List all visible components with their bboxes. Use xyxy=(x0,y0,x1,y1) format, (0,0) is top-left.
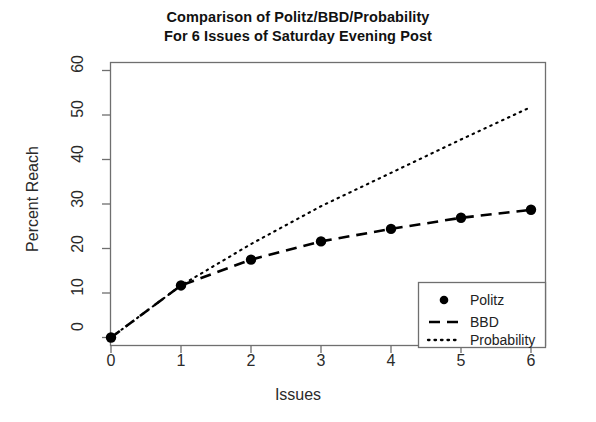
x-tick-label-2: 2 xyxy=(236,352,266,370)
plot-area xyxy=(0,0,596,422)
x-tick-label-1: 1 xyxy=(166,352,196,370)
legend-label-politz: Politz xyxy=(470,292,504,308)
x-axis-label: Issues xyxy=(0,386,596,404)
data-point-politz xyxy=(246,254,256,264)
y-tick-label-40: 40 xyxy=(69,145,85,175)
legend-label-probability: Probability xyxy=(470,332,535,348)
chart-figure: Comparison of Politz/BBD/Probability For… xyxy=(0,0,596,422)
y-tick-label-20: 20 xyxy=(69,235,85,265)
data-point-politz xyxy=(176,280,186,290)
data-point-politz xyxy=(106,332,116,342)
y-tick-label-50: 50 xyxy=(69,100,85,130)
data-point-politz xyxy=(456,213,466,223)
data-point-politz xyxy=(386,224,396,234)
chart-title: Comparison of Politz/BBD/Probability For… xyxy=(0,8,596,46)
y-axis-ticks xyxy=(102,71,110,338)
y-tick-label-0: 0 xyxy=(69,322,85,352)
x-tick-label-5: 5 xyxy=(446,352,476,370)
x-tick-label-3: 3 xyxy=(306,352,336,370)
chart-title-line-1: Comparison of Politz/BBD/Probability xyxy=(0,8,596,27)
chart-title-line-2: For 6 Issues of Saturday Evening Post xyxy=(0,27,596,46)
y-axis-label: Percent Reach xyxy=(24,119,42,279)
data-point-politz xyxy=(316,236,326,246)
data-point-politz xyxy=(526,205,536,215)
x-tick-label-0: 0 xyxy=(96,352,126,370)
legend-label-bbd: BBD xyxy=(470,314,499,330)
x-tick-label-4: 4 xyxy=(376,352,406,370)
x-tick-label-6: 6 xyxy=(516,352,546,370)
legend-marker-politz xyxy=(440,296,449,305)
y-tick-label-30: 30 xyxy=(69,190,85,220)
y-tick-label-10: 10 xyxy=(69,278,85,308)
y-tick-label-60: 60 xyxy=(69,55,85,85)
